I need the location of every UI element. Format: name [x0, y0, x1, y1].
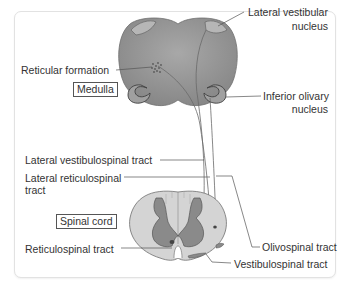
- label-medulla: Medulla: [73, 82, 118, 97]
- label-spinal-cord: Spinal cord: [56, 214, 117, 229]
- medulla-section: [119, 18, 238, 222]
- label-inferior-olivary-nucleus-line1: Inferior olivary: [263, 90, 329, 102]
- label-vestibulospinal-tract: Vestibulospinal tract: [234, 258, 327, 270]
- label-olivospinal-tract: Olivospinal tract: [262, 241, 337, 253]
- label-lateral-reticulospinal-tract-line2: tract: [25, 184, 45, 196]
- label-lateral-reticulospinal-tract-line1: Lateral reticulospinal: [25, 172, 121, 184]
- label-inferior-olivary-nucleus-line2: nucleus: [292, 103, 328, 115]
- label-reticular-formation: Reticular formation: [21, 64, 109, 76]
- label-lateral-vestibular-nucleus-line1: Lateral vestibular: [248, 6, 328, 18]
- label-lateral-vestibulospinal-tract: Lateral vestibulospinal tract: [25, 154, 152, 166]
- label-reticulospinal-tract: Reticulospinal tract: [25, 243, 114, 255]
- label-lateral-vestibular-nucleus-line2: nucleus: [292, 20, 328, 32]
- spinal-cord-section: [130, 191, 227, 260]
